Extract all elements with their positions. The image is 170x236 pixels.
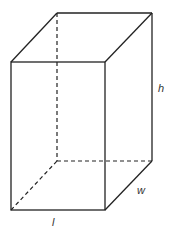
rectangular-prism-diagram: h w l bbox=[0, 0, 170, 236]
top-right-edge bbox=[105, 13, 152, 62]
width-label: w bbox=[137, 184, 146, 196]
height-label: h bbox=[158, 82, 164, 94]
top-left-edge bbox=[11, 13, 57, 62]
hidden-bottom-left-edge bbox=[11, 161, 57, 210]
front-face bbox=[11, 62, 105, 210]
length-label: l bbox=[52, 216, 55, 228]
